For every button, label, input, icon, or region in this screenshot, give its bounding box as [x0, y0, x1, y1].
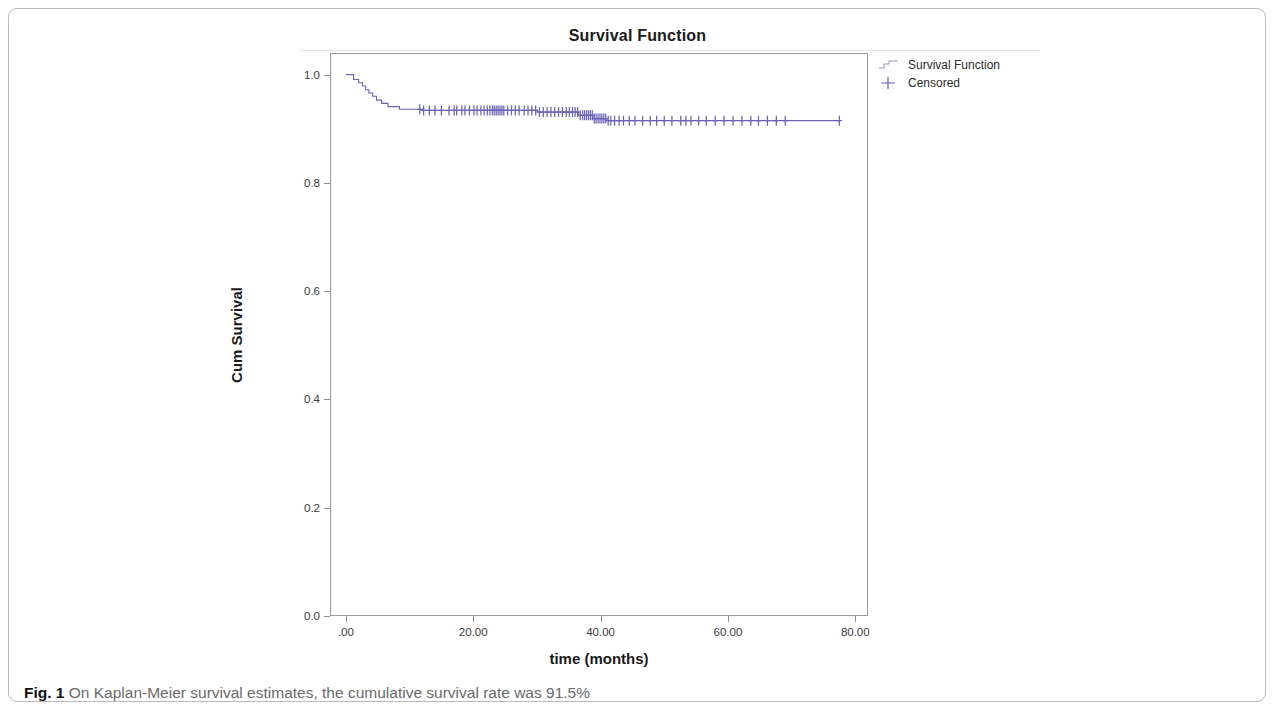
y-tick-label: 0.2: [276, 502, 320, 514]
censored-tick: [417, 104, 422, 114]
y-tick-mark: [324, 75, 330, 76]
y-tick-label: 0.4: [276, 393, 320, 405]
censored-tick: [669, 116, 674, 126]
y-tick-mark: [324, 291, 330, 292]
x-tick-label: .00: [311, 626, 381, 638]
censored-tick: [713, 116, 718, 126]
censored-tick: [688, 116, 693, 126]
legend-label-survival-function: Survival Function: [908, 58, 1000, 72]
y-tick-mark: [324, 508, 330, 509]
censored-tick: [783, 116, 788, 126]
censored-tick: [454, 105, 459, 115]
survival-chart-figure: Survival Function 0.00.20.40.60.81.0 .00…: [0, 0, 1275, 676]
censored-tick: [837, 116, 842, 126]
figure-caption: Fig. 1 On Kaplan-Meier survival estimate…: [24, 684, 1224, 702]
censored-tick: [517, 105, 522, 115]
censored-tick: [462, 105, 467, 115]
x-tick-mark: [346, 616, 347, 622]
censored-tick: [722, 116, 727, 126]
x-tick-label: 20.00: [438, 626, 508, 638]
figure-caption-text: On Kaplan-Meier survival estimates, the …: [69, 684, 590, 701]
censored-tick: [640, 116, 645, 126]
plus-marker-icon: [878, 75, 904, 91]
legend-item-censored: Censored: [878, 74, 1058, 92]
censored-tick: [616, 116, 621, 126]
step-line-icon: [878, 57, 904, 73]
censored-tick: [632, 116, 637, 126]
y-tick-mark: [324, 183, 330, 184]
censored-tick: [739, 116, 744, 126]
y-tick-label: 0.0: [276, 610, 320, 622]
legend-item-survival-function: Survival Function: [878, 56, 1058, 74]
censored-tick: [730, 116, 735, 126]
legend-label-censored: Censored: [908, 76, 960, 90]
y-axis-title: Cum Survival: [228, 287, 245, 383]
censored-tick: [654, 116, 659, 126]
censored-tick: [756, 116, 761, 126]
censored-tick: [704, 116, 709, 126]
censored-tick: [748, 116, 753, 126]
y-tick-label: 1.0: [276, 69, 320, 81]
censored-tick: [439, 105, 444, 115]
chart-title: Survival Function: [0, 27, 1275, 45]
censored-tick: [621, 116, 626, 126]
censored-tick: [774, 116, 779, 126]
censored-tick: [683, 116, 688, 126]
x-axis-title: time (months): [330, 650, 868, 667]
x-tick-label: 40.00: [566, 626, 636, 638]
title-divider: [300, 50, 1040, 51]
censored-tick: [533, 105, 538, 115]
x-tick-label: 60.00: [693, 626, 763, 638]
figure-caption-label: Fig. 1: [24, 684, 64, 701]
x-tick-mark: [728, 616, 729, 622]
censored-markers: [417, 104, 842, 125]
censored-tick: [612, 116, 617, 126]
x-tick-mark: [601, 616, 602, 622]
censored-tick: [662, 116, 667, 126]
chart-legend: Survival Function Censored: [878, 56, 1058, 92]
censored-tick: [427, 105, 432, 115]
censored-tick: [696, 116, 701, 126]
x-tick-label: 80.00: [820, 626, 890, 638]
censored-tick: [446, 105, 451, 115]
survival-curve-plot: [330, 53, 868, 616]
censored-tick: [627, 116, 632, 126]
censored-tick: [467, 105, 472, 115]
censored-tick: [421, 105, 426, 115]
y-tick-label: 0.6: [276, 285, 320, 297]
x-tick-mark: [855, 616, 856, 622]
y-tick-mark: [324, 399, 330, 400]
censored-tick: [432, 105, 437, 115]
x-tick-mark: [473, 616, 474, 622]
y-tick-label: 0.8: [276, 177, 320, 189]
censored-tick: [648, 116, 653, 126]
censored-tick: [765, 116, 770, 126]
y-tick-mark: [324, 616, 330, 617]
censored-tick: [678, 116, 683, 126]
